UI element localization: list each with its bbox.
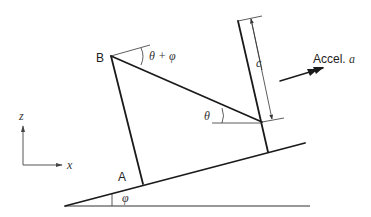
label-x-axis: x [66,158,73,172]
label-accel: Accel. a [313,52,355,66]
mechanics-diagram: B A θ + φ θ φ c Accel. a z x [0,0,371,217]
right-leg [238,21,268,152]
dimension-tick-top [238,16,262,21]
label-c: c [256,56,262,70]
left-leg-ab [111,56,143,184]
label-theta: θ [204,109,210,123]
label-phi: φ [122,191,129,205]
label-a: A [118,170,126,184]
label-z-axis: z [18,109,24,123]
label-b: B [96,51,104,65]
theta-arc [222,108,224,123]
theta-phi-arc [141,48,143,65]
dimension-tick-bottom [262,118,284,122]
diagonal-link [111,56,262,122]
b-reference-line [111,45,150,56]
incline-slope [65,143,305,206]
label-theta-phi: θ + φ [149,49,176,63]
